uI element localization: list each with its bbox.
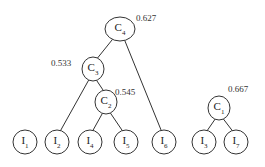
item-label-i7: I7 [232,134,239,149]
item-label-i3: I3 [200,134,207,149]
cluster-tree-diagram [0,0,265,167]
cluster-label-c4: C4 [115,21,126,36]
edge-C1-I7 [223,119,233,132]
edge-C2-I5 [110,113,123,132]
cluster-label-c3: C3 [88,61,99,76]
item-label-i6: I6 [160,134,167,149]
edge-C4-C3 [97,39,113,59]
edge-C4-I6 [125,40,162,131]
edge-C3-I2 [60,80,89,131]
item-label-i1: I1 [21,134,28,149]
cluster-label-c2: C2 [101,94,112,109]
edge-C2-I4 [93,113,103,131]
item-label-i4: I4 [86,134,93,149]
edge-C3-C2 [96,80,103,91]
edge-C1-I3 [207,119,215,131]
item-label-i2: I2 [53,134,60,149]
cluster-label-c1: C1 [214,100,225,115]
score-c4: 0.627 [136,13,156,23]
score-c1: 0.667 [228,84,248,94]
score-c2: 0.545 [115,87,135,97]
score-c3: 0.533 [51,58,71,68]
item-label-i5: I5 [122,134,129,149]
